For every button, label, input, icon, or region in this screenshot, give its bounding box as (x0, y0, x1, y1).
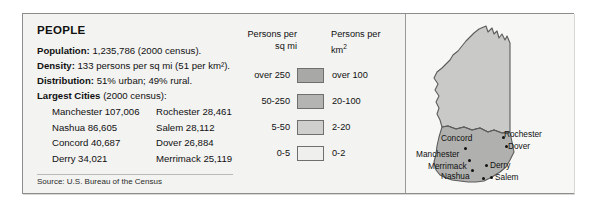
legend-label-km2: 2-20 (324, 122, 394, 132)
map-city-dot-manchester (468, 159, 471, 162)
people-info-column: PEOPLE Population: 1,235,786 (2000 censu… (37, 24, 253, 166)
largest-cities-heading-label: Largest Cities (37, 90, 100, 101)
legend-label-sq-mi: over 250 (223, 70, 297, 80)
map-city-dot-salem (490, 176, 493, 179)
map-city-label-salem: Salem (495, 173, 519, 182)
legend-swatch (297, 68, 324, 83)
legend-row: over 250 over 100 (223, 62, 401, 88)
fact-distribution-value: 51% urban; 49% rural. (97, 75, 192, 86)
legend-label-sq-mi: 0-5 (223, 148, 297, 158)
fact-population: Population: 1,235,786 (2000 census). (37, 43, 253, 58)
legend-label-km2: 0-2 (324, 148, 394, 158)
city-name-value: Nashua 86,605 (52, 120, 156, 136)
legend-header-sq-mi-line1: Persons per (247, 29, 297, 39)
map-city-dot-derry (485, 164, 488, 167)
legend-header-km2-superscript: 2 (343, 43, 347, 50)
density-legend: Persons per sq mi Persons per km2 over 2… (223, 29, 401, 159)
legend-header-sq-mi-line2: sq mi (275, 41, 297, 51)
map-city-label-derry: Derry (490, 161, 510, 170)
largest-cities-heading: Largest Cities (2000 census): (37, 88, 253, 103)
city-name-value: Derry 34,021 (52, 151, 156, 167)
legend-header-km2: Persons per km2 (331, 29, 405, 56)
legend-row: 0-5 0-2 (223, 140, 401, 166)
fact-density-label: Density: (37, 60, 75, 71)
largest-cities-heading-suffix: (2000 census): (103, 90, 166, 101)
legend-label-sq-mi: 5-50 (223, 122, 297, 132)
legend-header-sq-mi: Persons per sq mi (223, 29, 297, 52)
city-name-value: Concord 40,687 (52, 135, 156, 151)
map-city-label-dover: Dover (508, 142, 530, 151)
new-hampshire-density-map: Concord Manchester Merrimack Nashua Derr… (405, 14, 574, 193)
map-city-dot-concord (464, 147, 467, 150)
legend-label-km2: 20-100 (324, 96, 394, 106)
fact-density-value: 133 persons per sq mi (51 per km²). (78, 60, 231, 71)
legend-swatch (297, 120, 324, 135)
source-divider (37, 174, 233, 175)
legend-label-sq-mi: 50-250 (223, 96, 297, 106)
page-title: PEOPLE (37, 24, 253, 36)
map-city-label-merrimack: Merrimack (428, 162, 467, 171)
map-city-dot-nashua (482, 177, 485, 180)
legend-row: 50-250 20-100 (223, 88, 401, 114)
legend-header-km2-line2: km (331, 45, 343, 55)
legend-label-km2: over 100 (324, 70, 394, 80)
map-region-north-low-density (434, 26, 510, 133)
people-info-panel: PEOPLE Population: 1,235,786 (2000 censu… (22, 13, 574, 194)
legend-row: 5-50 2-20 (223, 114, 401, 140)
fact-distribution-label: Distribution: (37, 75, 94, 86)
screenshot-root: PEOPLE Population: 1,235,786 (2000 censu… (0, 0, 599, 209)
fact-density: Density: 133 persons per sq mi (51 per k… (37, 58, 253, 73)
fact-population-label: Population: (37, 45, 90, 56)
map-city-label-nashua: Nashua (441, 172, 470, 181)
city-name-value: Manchester 107,006 (52, 104, 156, 120)
legend-header-km2-line1: Persons per (331, 29, 381, 39)
fact-population-value: 1,235,786 (2000 census). (92, 45, 201, 56)
legend-rows: over 250 over 100 50-250 20-100 5-50 2-2… (223, 62, 401, 166)
map-city-label-concord: Concord (441, 134, 472, 143)
source-note: Source: U.S. Bureau of the Census (37, 177, 162, 186)
legend-swatch (297, 94, 324, 109)
legend-swatch (297, 146, 324, 161)
map-city-label-rochester: Rochester (504, 130, 542, 139)
map-city-dot-merrimack (471, 169, 474, 172)
fact-distribution: Distribution: 51% urban; 49% rural. (37, 73, 253, 88)
map-city-label-manchester: Manchester (416, 150, 459, 159)
